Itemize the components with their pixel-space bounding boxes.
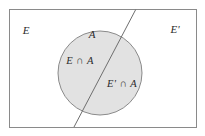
- label-region-e-prime-intersect-a: E' ∩ A: [106, 78, 137, 89]
- set-a-circle: [58, 31, 142, 115]
- label-universe-e: E: [22, 24, 30, 36]
- label-region-e-intersect-a: E ∩ A: [65, 55, 94, 66]
- venn-diagram-figure: E E' A E ∩ A E' ∩ A: [0, 0, 205, 136]
- label-set-a: A: [88, 28, 96, 40]
- venn-diagram-canvas: E E' A E ∩ A E' ∩ A: [0, 0, 205, 136]
- label-universe-e-prime: E': [169, 23, 180, 35]
